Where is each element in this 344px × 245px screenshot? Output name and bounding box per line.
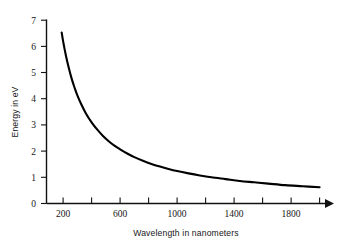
y-tick-label-7: 7 (31, 16, 36, 26)
x-tick-label-1000: 1000 (168, 209, 187, 219)
y-tick-label-2: 2 (31, 147, 36, 157)
x-axis-title: Wavelength in nanometers (133, 228, 239, 238)
energy-wavelength-plot: 7 6 5 4 3 2 1 0 200 600 1000 140 (0, 0, 344, 245)
x-tick-label-1400: 1400 (225, 209, 244, 219)
x-tick-label-600: 600 (113, 209, 128, 219)
y-tick-label-3: 3 (31, 120, 36, 130)
y-tick-label-0: 0 (31, 199, 36, 209)
y-tick-label-4: 4 (31, 94, 36, 104)
energy-curve (62, 33, 320, 188)
axes-group (47, 20, 335, 209)
y-axis-title: Energy in eV (10, 86, 20, 137)
y-axis-tick-labels: 7 6 5 4 3 2 1 0 (31, 16, 36, 209)
y-axis-ticks (41, 20, 47, 203)
x-tick-label-200: 200 (56, 209, 71, 219)
y-tick-label-1: 1 (31, 173, 36, 183)
chart-figure: 7 6 5 4 3 2 1 0 200 600 1000 140 (0, 0, 344, 245)
x-axis-tick-labels: 200 600 1000 1400 1800 (56, 209, 301, 219)
y-tick-label-6: 6 (31, 42, 36, 52)
x-axis-arrow-icon (325, 199, 334, 208)
x-axis-ticks (63, 198, 320, 204)
y-tick-label-5: 5 (31, 68, 36, 78)
x-tick-label-1800: 1800 (282, 209, 301, 219)
